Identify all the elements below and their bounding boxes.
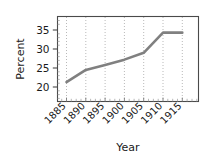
x-axis-title: Year bbox=[115, 141, 140, 154]
y-tick-label-25: 25 bbox=[36, 62, 49, 74]
y-tick-label-20: 20 bbox=[36, 81, 49, 93]
line-chart: 35 30 25 20 1885 1890 1895 1900 1905 191… bbox=[0, 0, 216, 158]
x-tick-labels: 1885 1890 1895 1900 1905 1910 1915 bbox=[42, 100, 184, 126]
chart-canvas: 35 30 25 20 1885 1890 1895 1900 1905 191… bbox=[0, 0, 216, 158]
y-axis-title: Percent bbox=[14, 38, 27, 80]
y-tick-label-30: 30 bbox=[36, 43, 49, 55]
x-tick-label-1915: 1915 bbox=[158, 100, 184, 126]
y-axis-major-ticks bbox=[53, 30, 58, 87]
y-tick-label-35: 35 bbox=[36, 24, 49, 36]
